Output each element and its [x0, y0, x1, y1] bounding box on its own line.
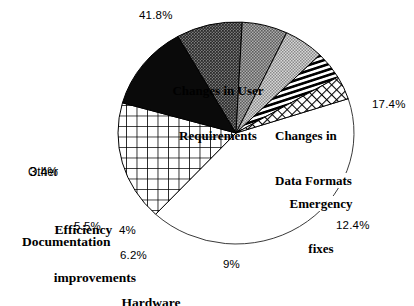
- slice-label-emergency-fixes-line1: Emergency: [263, 196, 379, 211]
- percent-label-documentation: 5.5%: [74, 220, 101, 232]
- percent-label-routine-debugging: 9%: [223, 258, 240, 270]
- percent-label-user-requirements: 41.8%: [139, 9, 173, 21]
- percent-label-hardware-changes: 6.2%: [120, 249, 147, 261]
- pie-chart-figure: Changes in User Requirements Changes in …: [0, 0, 414, 306]
- slice-label-routine-debugging: Routine Debugging: [196, 272, 306, 306]
- slice-label-hardware-line1: Hardware: [100, 295, 202, 306]
- slice-label-user-requirements-line1: Changes in User: [148, 83, 288, 98]
- percent-label-emergency-fixes: 12.4%: [336, 219, 370, 231]
- percent-label-data-formats: 17.4%: [372, 98, 406, 110]
- slice-label-hardware-changes: Hardware Changes: [100, 263, 202, 306]
- slice-label-user-requirements: Changes in User Requirements: [148, 53, 288, 173]
- slice-label-user-requirements-line2: Requirements: [148, 128, 288, 143]
- slice-label-documentation: Documentation: [22, 234, 111, 250]
- slice-label-other: Other: [0, 165, 58, 179]
- percent-label-efficiency: 4%: [119, 224, 136, 236]
- slice-label-data-formats-line1: Changes in: [272, 128, 392, 143]
- slice-label-emergency-fixes-line2: fixes: [263, 241, 379, 256]
